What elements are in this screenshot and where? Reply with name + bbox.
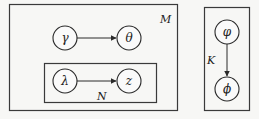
node-lambda-label: λ	[60, 74, 69, 88]
node-phi-label: ϕ	[223, 82, 231, 96]
plate-n-label: N	[96, 90, 107, 103]
plate-m: M	[10, 5, 178, 111]
node-z-label: z	[125, 74, 133, 88]
node-varphi: φ	[215, 20, 239, 44]
node-varphi-label: φ	[223, 25, 232, 39]
diagram-canvas: M N K γ θ λ z φ ϕ	[0, 0, 259, 119]
plate-k-label: K	[206, 54, 216, 67]
node-theta-label: θ	[125, 31, 133, 45]
node-lambda: λ	[53, 69, 77, 93]
node-gamma: γ	[53, 26, 77, 50]
node-phi: ϕ	[215, 77, 239, 101]
node-gamma-label: γ	[61, 31, 69, 45]
node-z: z	[117, 69, 141, 93]
plate-m-label: M	[159, 13, 172, 26]
node-theta: θ	[117, 26, 141, 50]
